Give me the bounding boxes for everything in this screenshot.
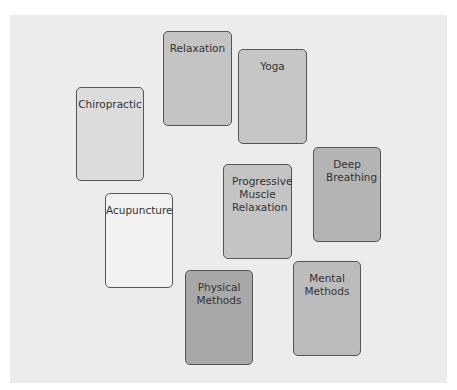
card-relaxation: Relaxation (163, 31, 232, 126)
card-yoga: Yoga (238, 49, 307, 144)
card-progressive-muscle-relaxation: Progressive Muscle Relaxation (223, 164, 292, 259)
card-physical-methods: Physical Methods (185, 270, 253, 365)
card-label: Progressive Muscle Relaxation (232, 175, 292, 213)
card-label: Chiropractic (78, 98, 141, 110)
card-label: Physical Methods (197, 281, 242, 306)
card-label: Acupuncture (106, 204, 173, 216)
card-label: Yoga (260, 60, 285, 72)
card-deep-breathing: Deep Breathing (313, 147, 381, 242)
card-mental-methods: Mental Methods (293, 261, 361, 356)
card-label: Relaxation (170, 42, 225, 54)
card-acupuncture: Acupuncture (105, 193, 173, 288)
card-label: Mental Methods (305, 272, 350, 297)
card-label: Deep Breathing (326, 158, 377, 183)
card-chiropractic: Chiropractic (76, 87, 144, 181)
